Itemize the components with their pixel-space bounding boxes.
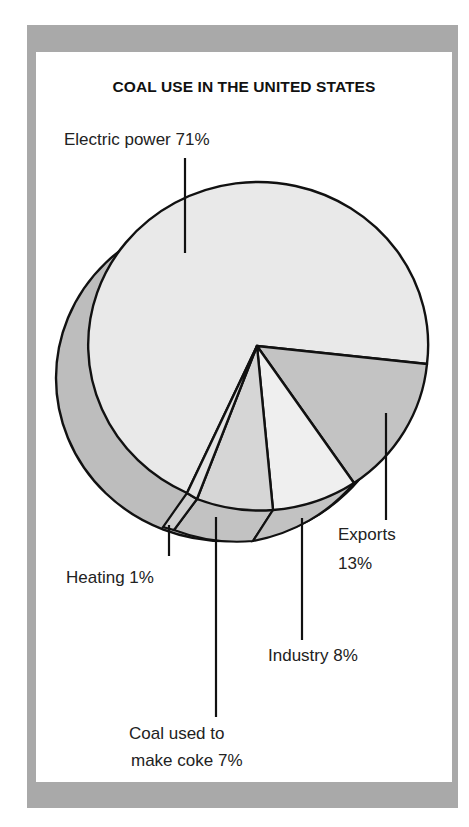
- pie-slices: [88, 182, 428, 511]
- label-exports: Exports: [338, 525, 396, 545]
- label-heating: Heating 1%: [66, 568, 154, 588]
- label-industry: Industry 8%: [268, 646, 358, 666]
- label-electric-power: Electric power 71%: [64, 130, 210, 150]
- label-exports-pct: 13%: [338, 554, 372, 574]
- label-coke-line2: make coke 7%: [131, 751, 243, 771]
- label-coke-line1: Coal used to: [129, 724, 224, 744]
- pie-chart: [0, 0, 469, 827]
